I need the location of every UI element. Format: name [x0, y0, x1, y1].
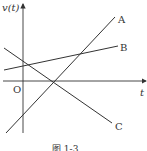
velocity-time-diagram: v(t) O t A B C 图 1-3	[0, 0, 147, 151]
line-c-label: C	[115, 121, 123, 132]
line-b	[4, 46, 118, 70]
origin-label: O	[13, 84, 21, 95]
figure-caption: 图 1-3	[52, 144, 79, 151]
line-b-label: B	[120, 42, 127, 53]
line-a	[6, 17, 115, 133]
line-a-label: A	[117, 14, 126, 25]
x-axis-label: t	[140, 87, 145, 98]
y-axis-label: v(t)	[2, 2, 20, 13]
